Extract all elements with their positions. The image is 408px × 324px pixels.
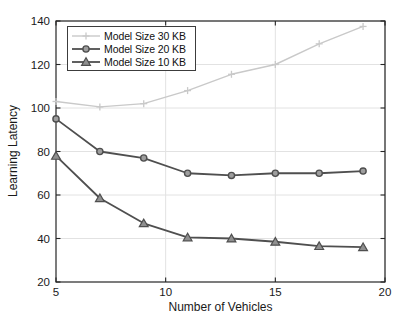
- legend-label: Model Size 10 KB: [104, 56, 186, 68]
- y-tick-label: 60: [37, 189, 50, 201]
- circle-marker-icon: [141, 155, 147, 161]
- y-tick-label: 40: [37, 233, 50, 245]
- y-tick-label: 20: [37, 276, 50, 288]
- y-axis-label: Learning Latency: [6, 105, 20, 197]
- legend-label: Model Size 20 KB: [104, 43, 186, 55]
- triangle-marker-icon: [52, 152, 61, 160]
- x-tick-label: 20: [379, 286, 392, 298]
- x-axis-label: Number of Vehicles: [56, 300, 385, 314]
- y-tick-label: 80: [37, 146, 50, 158]
- series-line-1: [56, 119, 363, 176]
- circle-marker-icon: [83, 45, 89, 51]
- legend-line-plus-icon: [71, 30, 101, 42]
- x-tick-label: 10: [159, 286, 172, 298]
- legend-line-triangle-icon: [71, 56, 101, 68]
- chart-canvas: 510152020406080100120140: [0, 0, 408, 324]
- y-tick-label: 120: [31, 59, 50, 71]
- legend: Model Size 30 KB Model Size 20 KB Model …: [67, 26, 196, 71]
- circle-marker-icon: [360, 168, 366, 174]
- y-tick-label: 100: [31, 102, 50, 114]
- circle-marker-icon: [316, 170, 322, 176]
- line-chart-figure: 510152020406080100120140 Model Size 30 K…: [0, 0, 408, 324]
- circle-marker-icon: [228, 172, 234, 178]
- legend-item-10kb: Model Size 10 KB: [71, 55, 192, 68]
- circle-marker-icon: [272, 170, 278, 176]
- legend-item-30kb: Model Size 30 KB: [71, 29, 192, 42]
- circle-marker-icon: [185, 170, 191, 176]
- circle-marker-icon: [97, 148, 103, 154]
- legend-label: Model Size 30 KB: [104, 30, 186, 42]
- circle-marker-icon: [53, 116, 59, 122]
- legend-item-20kb: Model Size 20 KB: [71, 42, 192, 55]
- y-tick-label: 140: [31, 15, 50, 27]
- triangle-marker-icon: [139, 219, 148, 227]
- legend-line-circle-icon: [71, 43, 101, 55]
- x-tick-label: 5: [53, 286, 59, 298]
- x-tick-label: 15: [269, 286, 282, 298]
